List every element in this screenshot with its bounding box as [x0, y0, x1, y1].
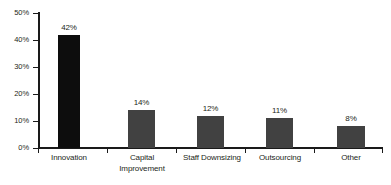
x-tick-5: [382, 149, 383, 153]
y-tick-label-1: 10%: [14, 116, 29, 125]
category-label-staff-downsizing: Staff Downsizing: [174, 153, 250, 164]
x-tick-4: [314, 149, 315, 153]
bar-innovation: 42%: [58, 35, 80, 148]
y-tick-3: 30%: [33, 67, 39, 68]
y-tick-2: 20%: [33, 94, 39, 95]
bar-value-innovation: 42%: [61, 23, 77, 32]
y-tick-4: 40%: [33, 40, 39, 41]
y-tick-label-5: 50%: [14, 8, 29, 17]
bar-outsourcing: 11%: [266, 118, 293, 148]
bar-chart: 0% 10% 20% 30% 40% 50% 42% 14% 12% 11% 8…: [0, 0, 391, 185]
y-tick-label-3: 30%: [14, 62, 29, 71]
category-label-innovation: Innovation: [39, 153, 99, 164]
y-tick-label-2: 20%: [14, 89, 29, 98]
y-tick-1: 10%: [33, 121, 39, 122]
bar-value-outsourcing: 11%: [272, 106, 287, 115]
bar-value-other: 8%: [345, 114, 356, 123]
bar-value-capital-improvement: 14%: [134, 98, 150, 107]
y-tick-5: 50%: [33, 13, 39, 14]
category-label-other: Other: [322, 153, 380, 164]
y-tick-label-4: 40%: [14, 35, 29, 44]
bar-other: 8%: [337, 126, 365, 148]
y-tick-label-0: 0%: [18, 143, 29, 152]
category-label-outsourcing: Outsourcing: [248, 153, 312, 164]
bar-capital-improvement: 14%: [128, 110, 155, 148]
bar-staff-downsizing: 12%: [197, 116, 224, 148]
category-label-capital-improvement: Capital Improvement: [107, 153, 177, 174]
y-axis-line: [38, 12, 40, 149]
bar-value-staff-downsizing: 12%: [203, 104, 219, 113]
